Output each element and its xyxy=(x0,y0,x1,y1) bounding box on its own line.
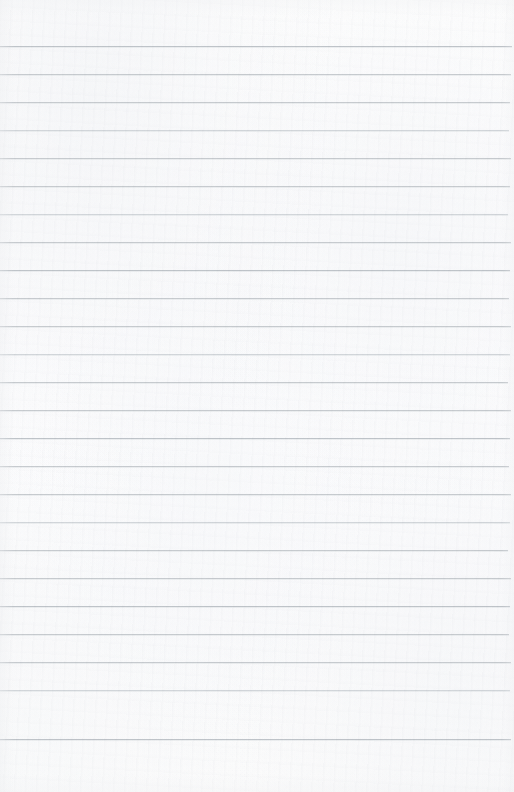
rule-line xyxy=(0,634,509,635)
rule-line xyxy=(0,410,511,411)
rule-line xyxy=(0,74,511,75)
rule-line xyxy=(0,46,512,47)
rule-line xyxy=(0,270,510,271)
rule-line xyxy=(0,158,511,159)
rule-line xyxy=(0,606,510,607)
rule-line xyxy=(0,522,510,523)
rule-line xyxy=(0,466,509,467)
rule-line xyxy=(0,739,511,740)
rule-line xyxy=(0,438,510,439)
rule-line xyxy=(0,382,508,383)
rule-line xyxy=(0,298,509,299)
rule-line xyxy=(0,242,511,243)
lined-paper-page xyxy=(0,0,514,792)
rule-line xyxy=(0,494,511,495)
rule-line xyxy=(0,214,508,215)
rule-line xyxy=(0,186,510,187)
rule-line xyxy=(0,354,510,355)
rule-line-layer xyxy=(0,0,514,792)
rule-line xyxy=(0,578,511,579)
rule-line xyxy=(0,550,508,551)
rule-line xyxy=(0,102,510,103)
rule-line xyxy=(0,690,510,691)
rule-line xyxy=(0,130,509,131)
rule-line xyxy=(0,662,511,663)
rule-line xyxy=(0,326,511,327)
